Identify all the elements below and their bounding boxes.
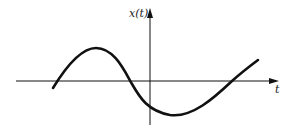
signal-diagram: x(t) t: [0, 0, 293, 133]
signal-curve: [53, 48, 258, 115]
y-axis-label: x(t): [129, 7, 148, 20]
t-axis-label: t: [275, 83, 280, 96]
